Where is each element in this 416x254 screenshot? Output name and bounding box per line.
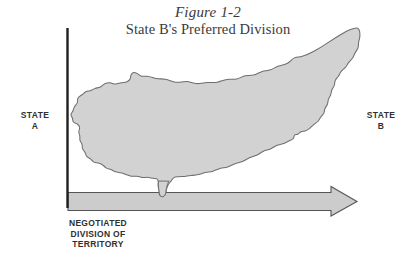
state-b-label: STATE B xyxy=(354,110,408,132)
state-a-label: STATE A xyxy=(8,110,62,132)
negotiated-division-caption: NEGOTIATED DIVISION OF TERRITORY xyxy=(38,218,158,250)
figure-container: Figure 1-2 State B's Preferred Division … xyxy=(0,0,416,254)
negotiation-arrow xyxy=(68,187,357,217)
cyprus-island-shape xyxy=(71,28,360,197)
